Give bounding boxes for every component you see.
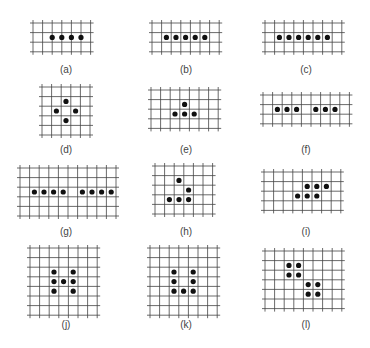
- dot-marker: [296, 35, 301, 40]
- grid-lattice: [33, 23, 91, 52]
- dot-marker: [41, 189, 46, 194]
- grid-lattice: [42, 87, 90, 135]
- dot-marker: [305, 184, 310, 189]
- dot-marker: [181, 289, 186, 294]
- dot-marker: [186, 187, 191, 192]
- dot-marker: [306, 282, 311, 287]
- grid-lattice: [151, 90, 218, 128]
- dot-marker: [61, 279, 66, 284]
- dot-marker: [182, 102, 187, 107]
- dot-marker: [332, 107, 337, 112]
- dot-marker: [71, 269, 76, 274]
- dot-marker: [277, 35, 282, 40]
- grid-lattice: [264, 172, 341, 210]
- dot-marker: [324, 184, 329, 189]
- dot-marker: [176, 197, 181, 202]
- dot-marker: [202, 35, 207, 40]
- dot-marker: [314, 193, 319, 198]
- dot-marker: [99, 189, 104, 194]
- panel-caption: (a): [46, 64, 86, 75]
- dot-marker: [173, 35, 178, 40]
- dot-marker: [191, 269, 196, 274]
- grid-lattice: [265, 251, 342, 309]
- dot-marker: [286, 263, 291, 268]
- dot-marker: [78, 35, 83, 40]
- dot-marker: [191, 279, 196, 284]
- dot-marker: [51, 189, 56, 194]
- dot-marker: [171, 289, 176, 294]
- dot-marker: [193, 35, 198, 40]
- dot-marker: [183, 35, 188, 40]
- dot-marker: [51, 289, 56, 294]
- dot-marker: [73, 108, 78, 113]
- panel-caption: (b): [166, 64, 206, 75]
- dot-marker: [296, 272, 301, 277]
- dot-marker: [284, 107, 289, 112]
- dot-marker: [192, 111, 197, 116]
- dot-marker: [294, 107, 299, 112]
- dot-marker: [315, 292, 320, 297]
- dot-marker: [63, 118, 68, 123]
- panel-caption: (l): [286, 319, 326, 330]
- grid-lattice: [152, 23, 219, 52]
- dot-marker: [176, 178, 181, 183]
- dot-marker: [182, 111, 187, 116]
- dot-marker: [164, 35, 169, 40]
- dot-marker: [191, 289, 196, 294]
- dot-marker: [315, 35, 320, 40]
- dot-marker: [80, 189, 85, 194]
- dot-marker: [50, 35, 55, 40]
- dot-marker: [171, 269, 176, 274]
- panel-caption: (i): [286, 226, 326, 237]
- panel-caption: (k): [166, 319, 206, 330]
- dot-marker: [69, 35, 74, 40]
- panel-caption: (d): [46, 144, 86, 155]
- panel-caption: (e): [166, 144, 206, 155]
- dot-marker: [172, 111, 177, 116]
- dot-marker: [286, 35, 291, 40]
- grid-lattice: [155, 166, 213, 214]
- dot-marker: [89, 189, 94, 194]
- grid-lattice: [20, 168, 116, 216]
- dot-marker: [59, 35, 64, 40]
- dot-marker: [306, 292, 311, 297]
- panel-caption: (c): [286, 64, 326, 75]
- dot-marker: [275, 107, 280, 112]
- dot-marker: [51, 269, 56, 274]
- dot-marker: [296, 263, 301, 268]
- dot-marker: [313, 107, 318, 112]
- dot-marker: [306, 35, 311, 40]
- dot-marker: [71, 289, 76, 294]
- dot-marker: [61, 189, 66, 194]
- dot-marker: [54, 108, 59, 113]
- dot-marker: [63, 99, 68, 104]
- dot-marker: [286, 272, 291, 277]
- panel-caption: (h): [166, 226, 206, 237]
- dot-marker: [51, 279, 56, 284]
- grid-lattice: [263, 95, 349, 124]
- grid-lattice: [30, 248, 97, 315]
- dot-marker: [325, 35, 330, 40]
- grid-lattice: [150, 248, 217, 315]
- dot-marker: [71, 279, 76, 284]
- panel-caption: (g): [46, 226, 86, 237]
- dot-marker: [32, 189, 37, 194]
- panel-caption: (f): [286, 144, 326, 155]
- dot-marker: [109, 189, 114, 194]
- dot-marker: [295, 193, 300, 198]
- dot-marker: [186, 197, 191, 202]
- dot-marker: [167, 197, 172, 202]
- grid-lattice: [265, 23, 342, 52]
- dot-marker: [323, 107, 328, 112]
- panel-caption: (j): [46, 319, 86, 330]
- dot-marker: [315, 282, 320, 287]
- dot-marker: [314, 184, 319, 189]
- dot-marker: [305, 193, 310, 198]
- dot-marker: [171, 279, 176, 284]
